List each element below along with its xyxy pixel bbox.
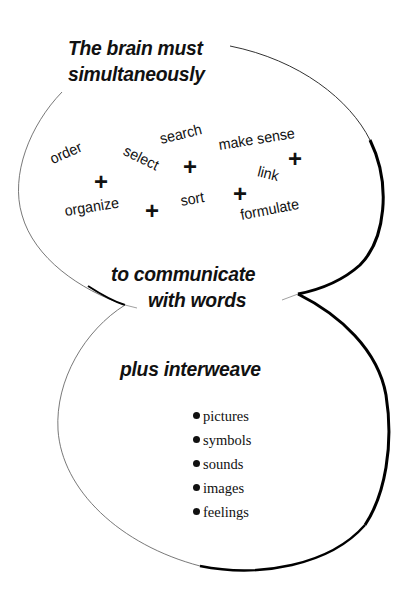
list-item: feelings [193,500,251,524]
heading-middle-line-1: to communicate [111,262,255,286]
cusp-right-tail [282,294,298,300]
cusp-left-tail [125,305,137,308]
upper-bubble-top-edge [230,46,370,140]
plus-sign: + [233,184,247,204]
heading-bottom: plus interweave [120,357,261,381]
heading-top-line-1: The brain must [68,36,203,60]
bullet-icon [193,460,200,467]
bullet-icon [193,436,200,443]
plus-sign: + [145,201,159,221]
bullet-icon [193,484,200,491]
interweave-list: pictures symbols sounds images feelings [193,404,251,524]
list-item: symbols [193,428,251,452]
plus-sign: + [183,157,197,177]
upper-bubble-left-thick [88,286,125,305]
list-item: pictures [193,404,251,428]
lower-bubble-right-edge [298,294,389,525]
list-item: images [193,476,251,500]
list-item: sounds [193,452,251,476]
bullet-icon [193,508,200,515]
plus-sign: + [94,172,108,192]
heading-middle-line-2: with words [148,288,246,312]
bullet-icon [193,412,200,419]
lower-bubble-left-edge [58,305,200,566]
upper-bubble-right-edge [298,140,383,294]
plus-sign: + [288,149,302,169]
lower-bubble-bottom-edge [200,525,365,570]
heading-top-line-2: simultaneously [68,62,205,86]
